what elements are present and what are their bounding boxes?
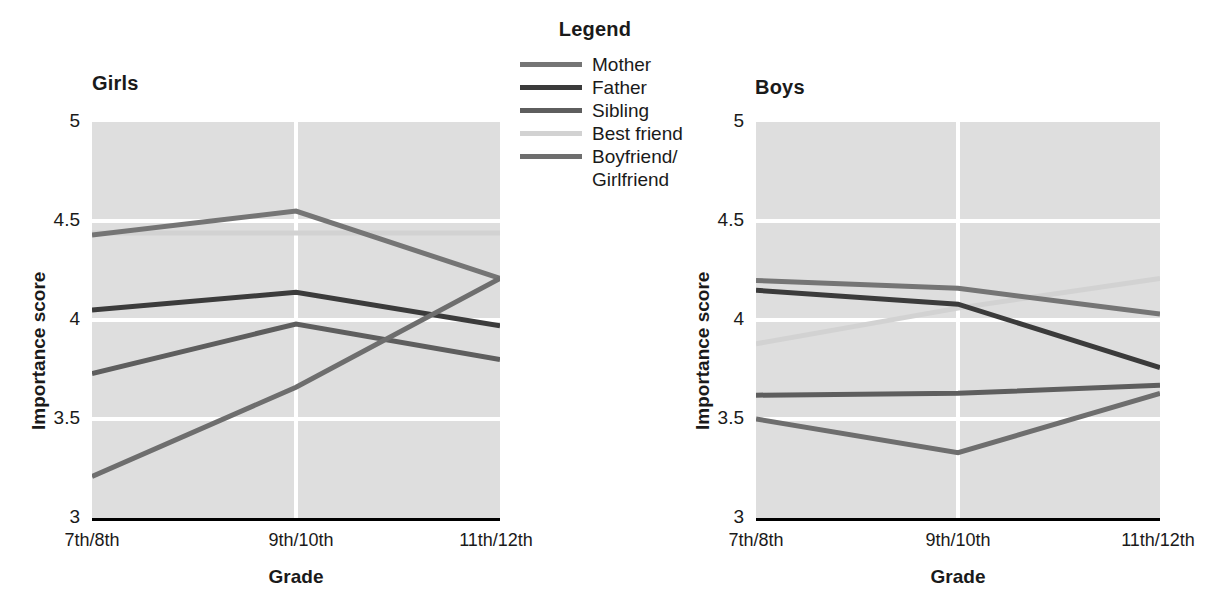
panel-title-boys: Boys: [755, 76, 805, 99]
legend-label-mother: Mother: [592, 53, 651, 76]
panel-title-girls: Girls: [92, 72, 139, 95]
plot-svg-girls: [92, 122, 500, 518]
y-tick-girls-5: 5: [40, 110, 80, 132]
panel-girls: Girls Importance score 5 4.5 4 3.5 3: [0, 0, 560, 608]
legend-label-girlfriend: Girlfriend: [592, 168, 669, 191]
y-tick-girls-3: 3: [40, 506, 80, 528]
panel-boys: Boys Importance score 5 4.5 4 3.5 3: [660, 0, 1218, 608]
x-tick-boys-11-12: 11th/12th: [1098, 530, 1218, 551]
x-tick-girls-9-10: 9th/10th: [246, 530, 356, 551]
legend-label-father: Father: [592, 76, 647, 99]
y-tick-girls-3-5: 3.5: [40, 407, 80, 429]
x-tick-boys-9-10: 9th/10th: [903, 530, 1013, 551]
y-tick-boys-4: 4: [704, 308, 744, 330]
figure-two-panel-line-charts: Legend Mother Father Sibling Best friend…: [0, 0, 1218, 608]
x-tick-boys-7-8: 7th/8th: [706, 530, 806, 551]
plot-area-boys: [756, 122, 1160, 518]
y-tick-boys-5: 5: [704, 110, 744, 132]
x-tick-girls-7-8: 7th/8th: [42, 530, 142, 551]
y-tick-boys-4-5: 4.5: [704, 209, 744, 231]
y-tick-boys-3-5: 3.5: [704, 407, 744, 429]
x-axis-line-girls: [92, 518, 500, 521]
x-axis-label-girls: Grade: [196, 566, 396, 588]
plot-area-girls: [92, 122, 500, 518]
y-tick-boys-3: 3: [704, 506, 744, 528]
y-tick-girls-4: 4: [40, 308, 80, 330]
x-tick-girls-11-12: 11th/12th: [436, 530, 556, 551]
legend-label-sibling: Sibling: [592, 99, 649, 122]
x-axis-label-boys: Grade: [858, 566, 1058, 588]
plot-svg-boys: [756, 122, 1160, 518]
y-tick-girls-4-5: 4.5: [40, 209, 80, 231]
x-axis-line-boys: [756, 518, 1160, 521]
